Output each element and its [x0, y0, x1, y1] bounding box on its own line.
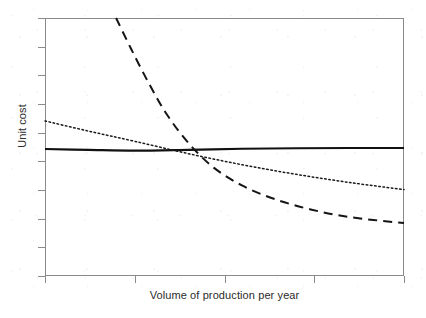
series-line-constant-unit-cost — [45, 148, 404, 151]
series-line-gently-declining-unit-cost — [45, 121, 404, 190]
series-line-steeply-falling-unit-cost — [116, 18, 404, 223]
y-axis-tick-group — [38, 19, 45, 277]
x-axis-tick-group — [46, 276, 405, 283]
chart-plot-canvas — [0, 0, 426, 318]
chart-figure: Volume of production per year Unit cost — [0, 0, 426, 318]
y-axis-title: Unit cost — [16, 86, 28, 166]
x-axis-title: Volume of production per year — [45, 289, 404, 301]
data-series-group — [45, 18, 404, 223]
